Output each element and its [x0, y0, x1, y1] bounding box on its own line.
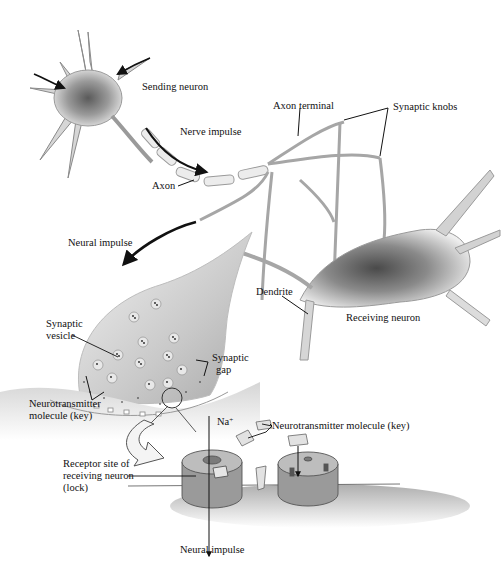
illustration [0, 0, 502, 582]
label-nerve-impulse: Nerve impulse [180, 126, 242, 138]
label-neural-impulse-top: Neural impulse [68, 237, 132, 249]
label-neural-impulse-bottom: Neural impulse [180, 544, 244, 556]
label-axon: Axon [152, 180, 175, 192]
sending-neuron [30, 30, 150, 178]
label-synaptic-vesicle: Synaptic vesicle [46, 318, 83, 342]
label-dendrite: Dendrite [256, 286, 293, 298]
neural-impulse-arrow-top [124, 222, 196, 264]
label-synaptic-knobs: Synaptic knobs [393, 101, 457, 113]
incoming-arrow-left [34, 74, 64, 88]
label-axon-terminal: Axon terminal [273, 100, 334, 112]
neuron-diagram: Sending neuron Nerve impulse Axon Axon t… [0, 0, 502, 582]
label-sending-neuron: Sending neuron [142, 81, 208, 93]
receiving-neuron [232, 170, 500, 360]
label-neurotransmitter-left: Neurotransmitter molecule (key) [29, 398, 101, 422]
label-receptor-site: Receptor site of receiving neuron (lock) [63, 458, 134, 494]
label-neurotransmitter-right: Neurotransmitter molecule (key) [272, 420, 410, 432]
receptor-right [278, 452, 338, 506]
incoming-arrow-right [118, 58, 150, 74]
label-synaptic-gap: Synaptic gap [212, 352, 249, 376]
label-receiving-neuron: Receiving neuron [346, 312, 420, 324]
receptor-left [182, 450, 242, 508]
label-sodium-ion: Na+ [217, 416, 233, 428]
